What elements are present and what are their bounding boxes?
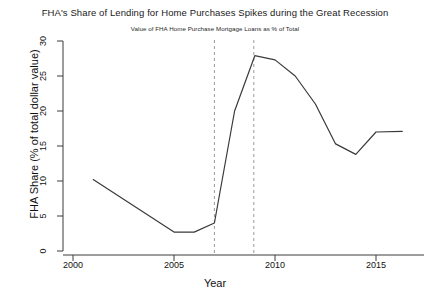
x-axis: [63, 255, 424, 261]
chart-container: FHA's Share of Lending for Home Purchase…: [0, 0, 430, 305]
recession-marker-lines: [214, 40, 253, 254]
y-axis: [57, 41, 63, 251]
fha-share-line: [93, 56, 402, 232]
chart-plot-area: [0, 0, 430, 305]
